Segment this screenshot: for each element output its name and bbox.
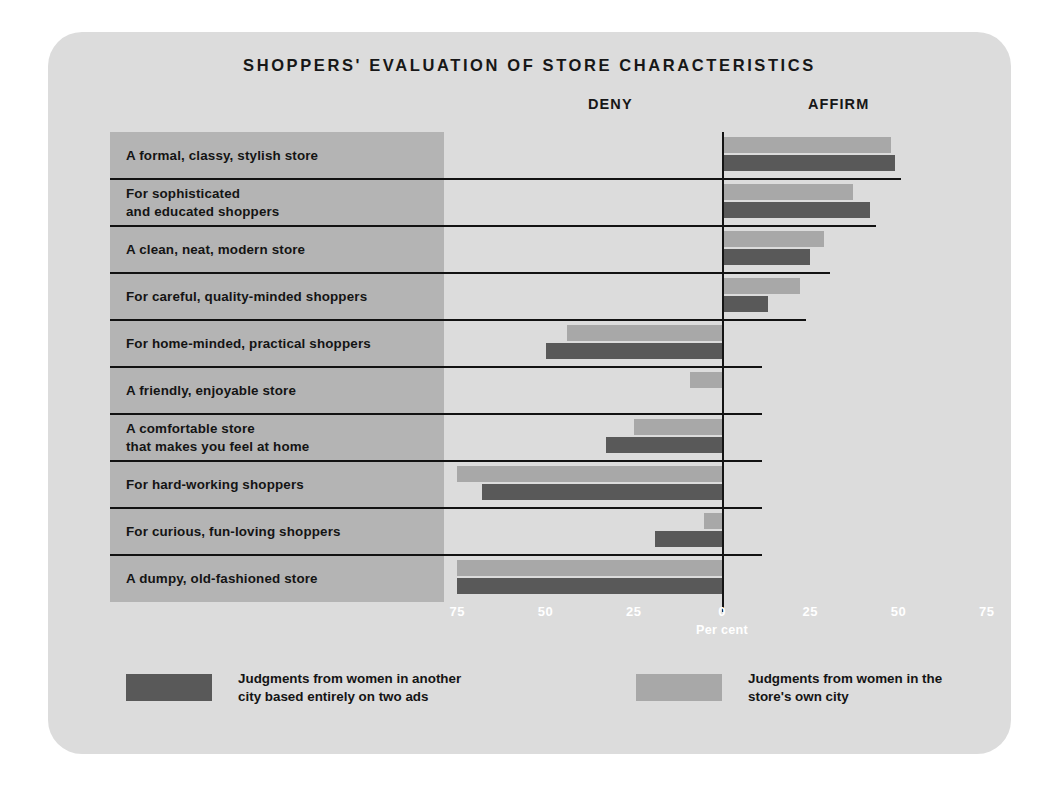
table-row: For home-minded, practical shoppers [48, 320, 1011, 367]
legend-swatch-dark [126, 674, 212, 701]
bar-light [722, 137, 891, 153]
axis-title: Per cent [696, 623, 748, 637]
category-label: For hard-working shoppers [126, 461, 442, 508]
bar-dark [482, 484, 722, 500]
bar-light [722, 278, 800, 294]
bar-light [457, 466, 722, 482]
category-label: A friendly, enjoyable store [126, 367, 442, 414]
chart-card: SHOPPERS' EVALUATION OF STORE CHARACTERI… [48, 32, 1011, 754]
bar-light [722, 231, 824, 247]
legend-item-other-city: Judgments from women in another city bas… [126, 670, 461, 706]
table-row: A dumpy, old-fashioned store [48, 555, 1011, 602]
axis-tick: 75 [450, 604, 465, 619]
legend-label-other-city: Judgments from women in another city bas… [238, 670, 461, 706]
legend-item-own-city: Judgments from women in the store's own … [636, 670, 942, 706]
table-row: For careful, quality-minded shoppers [48, 273, 1011, 320]
bar-dark [722, 155, 895, 171]
category-label: For careful, quality-minded shoppers [126, 273, 442, 320]
axis-tick: 50 [538, 604, 553, 619]
x-axis-scale: 7550250255075 Per cent [48, 604, 1011, 654]
table-row: For sophisticatedand educated shoppers [48, 179, 1011, 226]
table-row: For curious, fun-loving shoppers [48, 508, 1011, 555]
bar-dark [606, 437, 722, 453]
table-row: For hard-working shoppers [48, 461, 1011, 508]
bar-light [567, 325, 722, 341]
plot-area: A formal, classy, stylish storeFor sophi… [48, 132, 1011, 602]
bar-dark [722, 202, 870, 218]
table-row: A clean, neat, modern store [48, 226, 1011, 273]
legend-label-own-city: Judgments from women in the store's own … [748, 670, 942, 706]
category-label: For curious, fun-loving shoppers [126, 508, 442, 555]
legend-swatch-light [636, 674, 722, 701]
bar-dark [655, 531, 722, 547]
axis-tick: 25 [803, 604, 818, 619]
bar-light [690, 372, 722, 388]
bar-dark [722, 296, 768, 312]
bar-light [634, 419, 722, 435]
axis-tick: 0 [718, 604, 726, 619]
table-row: A comfortable storethat makes you feel a… [48, 414, 1011, 461]
table-row: A friendly, enjoyable store [48, 367, 1011, 414]
category-label: A comfortable storethat makes you feel a… [126, 414, 442, 461]
axis-tick: 50 [891, 604, 906, 619]
bar-light [457, 560, 722, 576]
category-label: A clean, neat, modern store [126, 226, 442, 273]
bar-dark [546, 343, 723, 359]
deny-heading: DENY [588, 96, 633, 112]
table-row: A formal, classy, stylish store [48, 132, 1011, 179]
category-label: For home-minded, practical shoppers [126, 320, 442, 367]
category-label: A formal, classy, stylish store [126, 132, 442, 179]
axis-tick: 75 [979, 604, 994, 619]
bar-dark [457, 578, 722, 594]
affirm-heading: AFFIRM [808, 96, 869, 112]
chart-title: SHOPPERS' EVALUATION OF STORE CHARACTERI… [48, 56, 1011, 75]
category-label: A dumpy, old-fashioned store [126, 555, 442, 602]
axis-tick: 25 [626, 604, 641, 619]
category-label: For sophisticatedand educated shoppers [126, 179, 442, 226]
bar-light [704, 513, 722, 529]
bar-dark [722, 249, 810, 265]
zero-axis-line [722, 132, 724, 612]
chart-legend: Judgments from women in another city bas… [48, 670, 1011, 736]
bar-light [722, 184, 853, 200]
